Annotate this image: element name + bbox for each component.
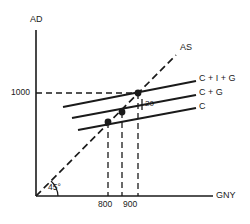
x-axis-title: GNY	[216, 191, 236, 200]
series-label-c-g: C + G	[199, 88, 223, 97]
series-label-c-i-g: C + I + G	[199, 74, 236, 83]
series-line-c	[78, 108, 196, 130]
point-marker-c-800	[105, 119, 112, 126]
annotation-gap-20: 20	[145, 100, 154, 108]
point-marker-c-g-900	[119, 109, 126, 116]
series-label-as: AS	[180, 43, 192, 52]
point-marker-c-i-g-1000	[135, 90, 142, 97]
x-tick-label-900: 900	[123, 200, 137, 209]
series-line-c-i-g	[63, 81, 196, 107]
y-axis-title: AD	[30, 15, 43, 24]
ad-as-keynesian-cross-chart: AD GNY 1000 800 900 AS C + I + G C + G C…	[0, 0, 250, 224]
y-tick-label-1000: 1000	[11, 88, 30, 97]
chart-canvas	[0, 0, 250, 224]
annotation-angle-45: 45°	[48, 183, 61, 192]
series-label-c: C	[199, 102, 206, 111]
x-tick-label-800: 800	[98, 200, 112, 209]
